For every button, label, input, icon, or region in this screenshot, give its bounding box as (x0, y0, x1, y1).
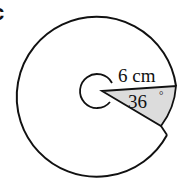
gap-edge (161, 126, 167, 135)
radius-label: 6 cm (118, 65, 156, 86)
circle-sector-diagram: c 6 cm 36 ° (0, 0, 179, 180)
degree-symbol: ° (159, 89, 163, 101)
part-label: c (0, 0, 4, 25)
angle-label: 36 (128, 91, 147, 112)
